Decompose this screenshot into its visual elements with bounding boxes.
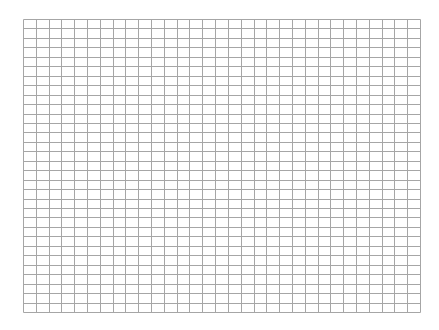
canvas <box>0 0 439 330</box>
grid-paper <box>23 19 422 314</box>
